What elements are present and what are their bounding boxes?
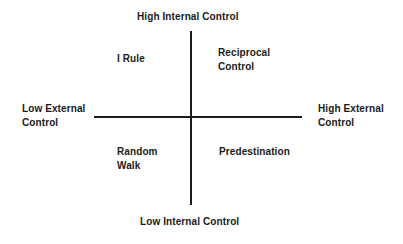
vertical-axis-line (190, 31, 192, 205)
quadrant-label-random-walk: Random Walk (117, 145, 158, 173)
axis-label-low-external-control: Low External Control (22, 102, 85, 130)
quadrant-label-predestination: Predestination (219, 145, 290, 159)
quadrant-diagram: High Internal Control Low Internal Contr… (0, 0, 403, 244)
horizontal-axis-line (94, 116, 302, 118)
axis-label-high-internal-control: High Internal Control (137, 10, 239, 24)
quadrant-label-reciprocal-control: Reciprocal Control (218, 46, 270, 74)
quadrant-label-i-rule: I Rule (117, 52, 145, 66)
axis-label-high-external-control: High External Control (318, 102, 384, 130)
axis-label-low-internal-control: Low Internal Control (140, 215, 239, 229)
